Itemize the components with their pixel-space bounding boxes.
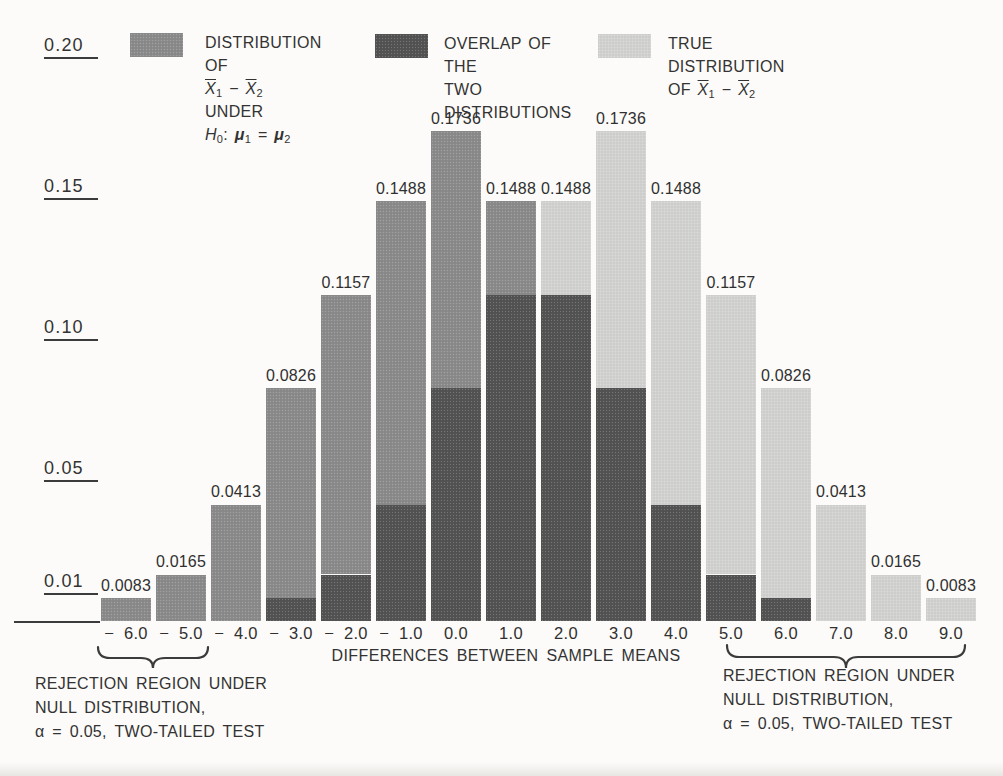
annotation-line: NULL DISTRIBUTION, bbox=[723, 688, 1003, 712]
annotation-line: α = 0.05, TWO-TAILED TEST bbox=[723, 712, 1003, 736]
legend-label-line: X1 − X2 UNDER bbox=[205, 77, 322, 123]
x-bar-symbol: X bbox=[698, 81, 709, 98]
bar-value-label: 0.0165 bbox=[851, 553, 941, 571]
bar bbox=[926, 598, 976, 621]
bar-segment-overlap bbox=[596, 388, 646, 621]
bar-value-label: 0.0083 bbox=[906, 577, 996, 595]
bar-segment-null-distribution bbox=[431, 131, 481, 388]
legend-label: TRUE DISTRIBUTIONOF X1 − X2 bbox=[668, 32, 785, 101]
bar-segment-overlap bbox=[706, 575, 756, 622]
bar-value-label: 0.1736 bbox=[576, 110, 666, 128]
bar-segment-true-distribution bbox=[596, 131, 646, 388]
bar bbox=[651, 201, 701, 621]
legend-label-line: TRUE DISTRIBUTION bbox=[668, 32, 785, 78]
annotation-right-rejection-region: REJECTION REGION UNDER NULL DISTRIBUTION… bbox=[723, 664, 1003, 736]
bar-value-label: 0.1488 bbox=[631, 180, 721, 198]
y-axis-tick-label: 0.05 bbox=[44, 458, 114, 479]
legend-swatch-overlap bbox=[375, 34, 428, 58]
subscript: 1 bbox=[216, 87, 222, 99]
legend-swatch-true bbox=[598, 34, 651, 58]
bar-segment-true-distribution bbox=[706, 295, 756, 575]
bar-segment-null-distribution bbox=[376, 201, 426, 504]
subscript: 2 bbox=[257, 87, 263, 99]
bar bbox=[706, 295, 756, 621]
bar-segment-true-distribution bbox=[926, 598, 976, 621]
bar-segment-true-distribution bbox=[651, 201, 701, 504]
x-bar-symbol: X bbox=[738, 81, 749, 98]
annotation-line: REJECTION REGION UNDER bbox=[35, 672, 315, 696]
subscript: 2 bbox=[284, 133, 290, 145]
x-bar-symbol: X bbox=[246, 80, 257, 97]
y-axis-tick-line bbox=[44, 57, 98, 59]
bar-value-label: 0.0826 bbox=[741, 367, 831, 385]
bar-segment-null-distribution bbox=[211, 505, 261, 622]
bar-segment-true-distribution bbox=[541, 201, 591, 294]
left-rejection-brace-icon bbox=[98, 647, 208, 668]
bar bbox=[321, 295, 371, 621]
italic-symbol: H bbox=[205, 126, 217, 143]
bar bbox=[486, 201, 536, 621]
annotation-left-rejection-region: REJECTION REGION UNDER NULL DISTRIBUTION… bbox=[35, 672, 315, 744]
y-axis-tick-line bbox=[44, 198, 98, 200]
subscript: 2 bbox=[749, 88, 755, 100]
y-axis-tick-line bbox=[44, 480, 98, 482]
bar-segment-overlap bbox=[486, 295, 536, 621]
annotation-line: REJECTION REGION UNDER bbox=[723, 664, 1003, 688]
bar bbox=[376, 201, 426, 621]
legend-label: DISTRIBUTION OFX1 − X2 UNDERH0: μ1 = μ2 bbox=[205, 31, 322, 146]
y-axis-zero-line bbox=[14, 621, 100, 623]
mu-symbol: μ bbox=[274, 126, 284, 143]
bar-segment-null-distribution bbox=[156, 575, 206, 622]
legend-label: OVERLAP OF THETWO DISTRIBUTIONS bbox=[444, 32, 571, 124]
bar bbox=[266, 388, 316, 621]
subscript: 1 bbox=[245, 133, 251, 145]
bar bbox=[156, 575, 206, 622]
bar-segment-overlap bbox=[266, 598, 316, 621]
bar-segment-overlap bbox=[541, 295, 591, 621]
statistical-figure: 0.200.150.100.050.01 0.00830.01650.04130… bbox=[0, 0, 1003, 776]
y-axis-tick-line bbox=[44, 339, 98, 341]
bar-value-label: 0.1157 bbox=[686, 274, 776, 292]
y-axis-tick-label: 0.15 bbox=[44, 176, 114, 197]
bar bbox=[541, 201, 591, 621]
annotation-line: α = 0.05, TWO-TAILED TEST bbox=[35, 720, 315, 744]
bar-segment-null-distribution bbox=[266, 388, 316, 598]
annotation-line: NULL DISTRIBUTION, bbox=[35, 696, 315, 720]
bar bbox=[211, 505, 261, 622]
bar-value-label: 0.0413 bbox=[796, 483, 886, 501]
bar bbox=[761, 388, 811, 621]
bar-segment-overlap bbox=[651, 505, 701, 622]
bar-segment-overlap bbox=[761, 598, 811, 621]
bar-segment-overlap bbox=[376, 505, 426, 622]
subscript: 0 bbox=[217, 133, 223, 145]
legend-swatch-null bbox=[130, 33, 183, 57]
bar bbox=[596, 131, 646, 621]
legend-label-line: OF X1 − X2 bbox=[668, 78, 785, 101]
bar-segment-null-distribution bbox=[101, 598, 151, 621]
bar-segment-null-distribution bbox=[486, 201, 536, 294]
y-axis-tick-label: 0.20 bbox=[44, 35, 114, 56]
bar-segment-null-distribution bbox=[321, 295, 371, 575]
subscript: 1 bbox=[709, 88, 715, 100]
bar-segment-overlap bbox=[431, 388, 481, 621]
legend-label-line: TWO DISTRIBUTIONS bbox=[444, 78, 571, 124]
bar-segment-overlap bbox=[321, 575, 371, 622]
mu-symbol: μ bbox=[235, 126, 245, 143]
bar bbox=[101, 598, 151, 621]
legend-label-line: OVERLAP OF THE bbox=[444, 32, 571, 78]
legend-label-line: H0: μ1 = μ2 bbox=[205, 123, 322, 146]
x-bar-symbol: X bbox=[205, 80, 216, 97]
legend-label-line: DISTRIBUTION OF bbox=[205, 31, 322, 77]
y-axis-tick-label: 0.10 bbox=[44, 317, 114, 338]
bar bbox=[431, 131, 481, 621]
